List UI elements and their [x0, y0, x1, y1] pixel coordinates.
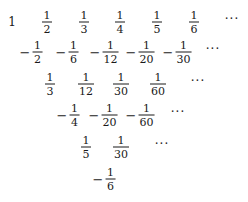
denominator: 2 — [42, 22, 52, 35]
array-entry: 15 — [152, 10, 162, 35]
array-entry: −130 — [163, 40, 192, 65]
numerator: 1 — [154, 72, 163, 84]
array-entry: −14 — [57, 103, 80, 128]
numerator: 1 — [70, 103, 79, 115]
denominator: 60 — [138, 115, 154, 128]
denominator: 4 — [115, 22, 125, 35]
fraction: 12 — [42, 10, 52, 35]
fraction: 112 — [78, 72, 94, 97]
array-entry: −120 — [126, 40, 155, 65]
minus-sign: − — [90, 46, 101, 59]
fraction: 130 — [113, 72, 129, 97]
whole-number: 1 — [8, 15, 16, 29]
fraction: 14 — [69, 103, 79, 128]
denominator: 12 — [102, 52, 118, 65]
fraction: 13 — [45, 72, 55, 97]
numerator: 1 — [106, 167, 115, 179]
numerator: 1 — [142, 40, 151, 52]
fraction: 15 — [152, 10, 162, 35]
array-entry: 13 — [45, 72, 55, 97]
array-entry: −120 — [89, 103, 118, 128]
minus-sign: − — [57, 109, 68, 122]
numerator: 1 — [142, 103, 151, 115]
denominator: 30 — [175, 52, 191, 65]
fraction: 16 — [68, 40, 78, 65]
ellipsis: ··· — [155, 137, 169, 151]
denominator: 3 — [79, 22, 89, 35]
minus-sign: − — [89, 109, 100, 122]
denominator: 60 — [150, 84, 166, 97]
fraction: 16 — [105, 167, 115, 192]
numerator: 1 — [33, 40, 42, 52]
denominator: 12 — [78, 84, 94, 97]
numerator: 1 — [80, 10, 89, 22]
array-entry: 12 — [42, 10, 52, 35]
numerator: 1 — [117, 135, 126, 147]
fraction: 130 — [175, 40, 191, 65]
array-entry: −12 — [20, 40, 43, 65]
array-entry: 1 — [8, 15, 16, 29]
numerator: 1 — [106, 40, 115, 52]
denominator: 20 — [101, 115, 117, 128]
numerator: 1 — [69, 40, 78, 52]
denominator: 3 — [45, 84, 55, 97]
numerator: 1 — [153, 10, 162, 22]
ellipsis: ··· — [191, 74, 205, 88]
fraction: 16 — [189, 10, 199, 35]
array-entry: −16 — [93, 167, 116, 192]
fraction: 12 — [32, 40, 42, 65]
numerator: 1 — [179, 40, 188, 52]
numerator: 1 — [116, 10, 125, 22]
fraction: 120 — [101, 103, 117, 128]
array-entry: 130 — [113, 135, 129, 160]
fraction: 160 — [150, 72, 166, 97]
minus-sign: − — [126, 109, 137, 122]
numerator: 1 — [82, 135, 91, 147]
denominator: 30 — [113, 84, 129, 97]
numerator: 1 — [43, 10, 52, 22]
denominator: 6 — [68, 52, 78, 65]
minus-sign: − — [126, 46, 137, 59]
array-entry: 160 — [150, 72, 166, 97]
array-entry: −112 — [90, 40, 119, 65]
fraction: 130 — [113, 135, 129, 160]
minus-sign: − — [56, 46, 67, 59]
denominator: 5 — [152, 22, 162, 35]
minus-sign: − — [163, 46, 174, 59]
ellipsis: ··· — [225, 12, 239, 26]
numerator: 1 — [190, 10, 199, 22]
numerator: 1 — [105, 103, 114, 115]
array-entry: −160 — [126, 103, 155, 128]
denominator: 30 — [113, 147, 129, 160]
denominator: 4 — [69, 115, 79, 128]
fraction: 15 — [81, 135, 91, 160]
ellipsis: ··· — [171, 105, 185, 119]
minus-sign: − — [93, 173, 104, 186]
denominator: 5 — [81, 147, 91, 160]
fraction: 112 — [102, 40, 118, 65]
array-entry: 14 — [115, 10, 125, 35]
array-entry: −16 — [56, 40, 79, 65]
denominator: 6 — [189, 22, 199, 35]
numerator: 1 — [117, 72, 126, 84]
array-entry: 15 — [81, 135, 91, 160]
fraction: 120 — [138, 40, 154, 65]
minus-sign: − — [20, 46, 31, 59]
fraction: 160 — [138, 103, 154, 128]
denominator: 2 — [32, 52, 42, 65]
ellipsis: ··· — [206, 42, 220, 56]
numerator: 1 — [82, 72, 91, 84]
array-entry: 130 — [113, 72, 129, 97]
fraction: 13 — [79, 10, 89, 35]
fraction: 14 — [115, 10, 125, 35]
denominator: 20 — [138, 52, 154, 65]
denominator: 6 — [105, 179, 115, 192]
array-entry: 16 — [189, 10, 199, 35]
array-entry: 112 — [78, 72, 94, 97]
numerator: 1 — [46, 72, 55, 84]
array-entry: 13 — [79, 10, 89, 35]
